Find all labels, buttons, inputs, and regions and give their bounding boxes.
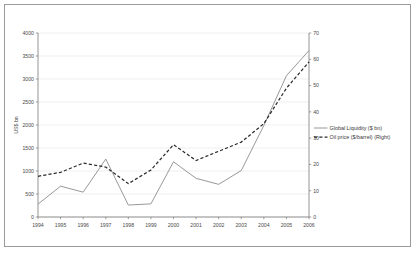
x-axis-tick-label: 1996 bbox=[77, 222, 89, 228]
secondary-y-axis-tick-label: 40 bbox=[313, 109, 319, 115]
y-axis-tick-label: 3500 bbox=[22, 53, 34, 59]
x-axis-tick-label: 2001 bbox=[190, 222, 202, 228]
secondary-y-axis-tick-label: 50 bbox=[313, 82, 319, 88]
y-axis-tick-label: 0 bbox=[31, 214, 34, 220]
x-axis-tick-label: 1999 bbox=[145, 222, 157, 228]
y-axis-tick-label: 1000 bbox=[22, 168, 34, 174]
x-axis-tick-label: 2004 bbox=[258, 222, 270, 228]
secondary-y-axis-tick-label: 10 bbox=[313, 188, 319, 194]
chart-canvas: 05001000150020002500300035004000 0102030… bbox=[5, 5, 412, 248]
secondary-y-axis-tick-labels: 010203040506070 bbox=[313, 30, 319, 220]
x-axis-tick-label: 1995 bbox=[55, 222, 67, 228]
y-axis-tick-label: 1500 bbox=[22, 145, 34, 151]
y-axis-tick-label: 2500 bbox=[22, 99, 34, 105]
y-axis-tick-labels: 05001000150020002500300035004000 bbox=[22, 30, 34, 220]
secondary-y-axis-tick-label: 60 bbox=[313, 56, 319, 62]
axes bbox=[36, 33, 311, 219]
legend-label-global-liquidity: Global Liquidity ($ bn) bbox=[330, 125, 383, 131]
series-line-global-liquidity bbox=[38, 50, 309, 205]
gridlines bbox=[38, 33, 309, 217]
y-axis-title-label: US$ bn bbox=[13, 116, 19, 133]
secondary-y-axis-tick-label: 20 bbox=[313, 161, 319, 167]
chart-figure-frame: 05001000150020002500300035004000 0102030… bbox=[4, 4, 411, 247]
secondary-y-axis-tick-label: 30 bbox=[313, 135, 319, 141]
data-series bbox=[38, 50, 309, 205]
x-axis-tick-label: 2002 bbox=[213, 222, 225, 228]
x-axis-tick-label: 1997 bbox=[100, 222, 112, 228]
chart-legend: Global Liquidity ($ bn)Oil price ($/barr… bbox=[314, 125, 391, 140]
x-axis-tick-label: 2006 bbox=[303, 222, 315, 228]
legend-label-oil-price: Oil price ($/barrel) (Right) bbox=[330, 134, 391, 140]
series-line-oil-price bbox=[38, 62, 309, 184]
y-axis-tick-label: 2000 bbox=[22, 122, 34, 128]
x-axis-tick-label: 2003 bbox=[235, 222, 247, 228]
secondary-y-axis-tick-label: 70 bbox=[313, 30, 319, 36]
y-axis-tick-label: 500 bbox=[25, 191, 34, 197]
x-axis-tick-label: 2005 bbox=[281, 222, 293, 228]
x-axis-tick-label: 1994 bbox=[32, 222, 44, 228]
secondary-y-axis-tick-label: 0 bbox=[313, 214, 316, 220]
x-axis-tick-label: 2000 bbox=[168, 222, 180, 228]
y-axis-tick-label: 4000 bbox=[22, 30, 34, 36]
y-axis-title: US$ bn bbox=[13, 116, 19, 133]
y-axis-tick-label: 3000 bbox=[22, 76, 34, 82]
x-axis-tick-labels: 1994199519961997199819992000200120022003… bbox=[32, 222, 315, 228]
x-axis-tick-label: 1998 bbox=[123, 222, 135, 228]
